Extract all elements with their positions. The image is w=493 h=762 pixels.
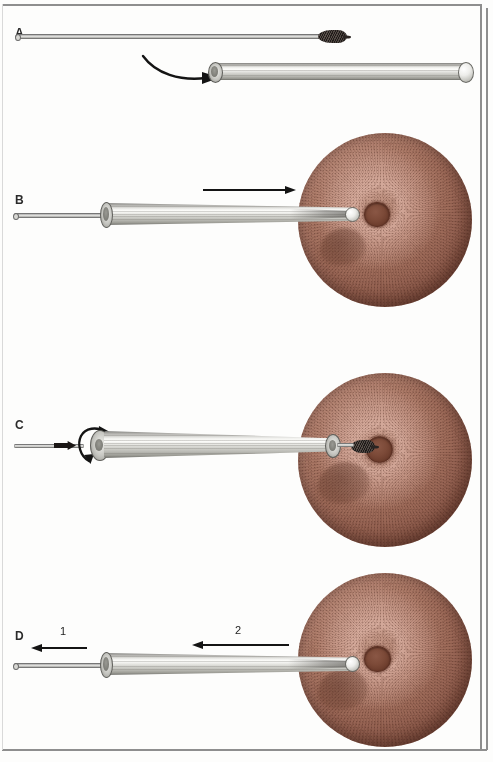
frame-border-bottom xyxy=(2,749,487,751)
panel-label-b: B xyxy=(15,193,24,207)
brush-shaft-proximal-cap xyxy=(15,34,21,41)
brush-shaft-proximal-cap-b xyxy=(13,213,19,220)
sheath-texture-d xyxy=(104,656,351,672)
withdraw-sheath-arrow-head-d xyxy=(192,641,203,649)
frame-border-left xyxy=(2,4,3,750)
central-opening-d xyxy=(364,646,391,672)
brush-bristle-head-c xyxy=(351,440,375,453)
figure-plate: A B xyxy=(0,0,493,762)
brush-bristle-head xyxy=(318,30,347,43)
brush-shaft-proximal-cap-d xyxy=(13,663,19,670)
sheath-texture-a xyxy=(215,65,467,78)
withdraw-brush-arrow-head-d xyxy=(31,644,42,652)
panel-label-c: C xyxy=(15,418,24,432)
step-number-1: 1 xyxy=(60,625,66,637)
sheath-distal-lumen-c xyxy=(329,440,336,451)
brush-shaft-b xyxy=(14,213,106,218)
sheath-lumen-b xyxy=(103,207,109,221)
withdraw-brush-arrow-shaft-d xyxy=(42,647,87,649)
step-number-2: 2 xyxy=(235,624,241,636)
sheath-lumen-d xyxy=(103,657,109,671)
sheath-tube-a xyxy=(215,63,467,80)
sheath-lumen-c xyxy=(95,439,103,451)
advance-arrow-head-b xyxy=(285,186,296,194)
sheath-texture-c xyxy=(104,435,332,454)
sheath-distal-tip-b xyxy=(345,207,360,222)
brush-shaft-d xyxy=(14,663,106,668)
sheath-distal-tip-d xyxy=(345,656,360,672)
central-opening-b xyxy=(364,202,390,227)
brush-exposed-stem-c xyxy=(337,443,354,447)
panel-label-d: D xyxy=(15,629,24,643)
frame-border-top xyxy=(2,4,482,6)
sheath-distal-end-a xyxy=(458,62,474,83)
withdraw-sheath-arrow-shaft-d xyxy=(203,644,289,646)
brush-shaft xyxy=(16,34,321,39)
frame-border-right xyxy=(480,4,482,750)
sheath-lumen-a xyxy=(211,66,218,77)
sheath-texture-b xyxy=(104,206,351,222)
advance-arrow-shaft-b xyxy=(203,189,287,191)
frame-border-right-outer xyxy=(486,8,488,750)
brush-advance-marker-icon-c xyxy=(54,441,76,450)
